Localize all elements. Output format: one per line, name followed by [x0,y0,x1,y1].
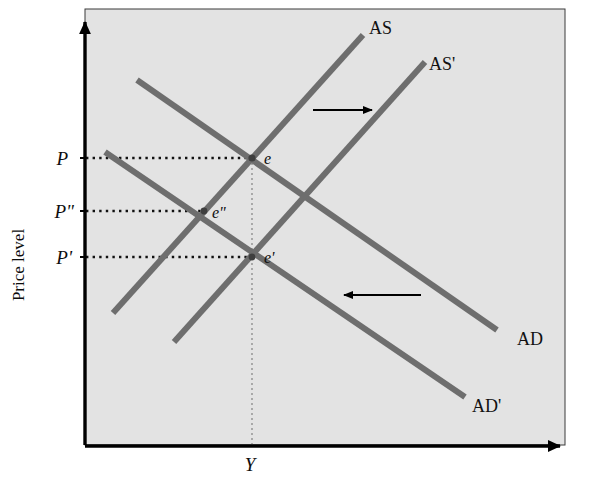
label-point-e-dprime: e" [212,204,226,221]
label-curve-ad-prime: AD' [472,396,501,416]
label-curve-as: AS [369,18,392,38]
point-e-prime [249,254,256,261]
label-point-e-prime: e' [264,249,275,266]
label-curve-ad: AD [517,329,543,349]
y-tick-label-P-dprime: P" [53,201,75,222]
y-tick-label-P: P [55,148,68,169]
as-ad-diagram: P P" P' Price level Y e e" e' AS AS' AD … [0,0,603,478]
y-tick-label-P-prime: P' [55,247,73,268]
label-curve-as-prime: AS' [429,54,455,74]
label-point-e: e [264,150,271,167]
point-e-dprime [201,208,208,215]
x-axis-label: Y [245,454,258,475]
y-axis-label: Price level [9,229,28,301]
point-e [248,154,255,161]
